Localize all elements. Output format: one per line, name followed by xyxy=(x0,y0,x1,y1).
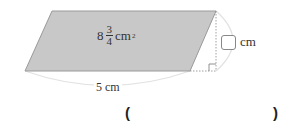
area-whole: 8 xyxy=(97,28,104,44)
area-fraction: 3 4 xyxy=(106,24,114,47)
height-answer-box[interactable] xyxy=(221,35,236,50)
area-unit: cm xyxy=(115,28,131,44)
right-angle-icon xyxy=(209,64,216,71)
height-unit-label: cm xyxy=(240,34,256,50)
parallelogram-diagram xyxy=(0,0,285,133)
answer-open-paren: ( xyxy=(125,104,130,121)
area-label: 8 3 4 cm2 xyxy=(97,24,135,47)
base-label: 5 cm xyxy=(94,80,122,95)
area-unit-exponent: 2 xyxy=(132,32,136,40)
answer-close-paren: ) xyxy=(273,104,278,121)
area-denominator: 4 xyxy=(107,36,113,47)
